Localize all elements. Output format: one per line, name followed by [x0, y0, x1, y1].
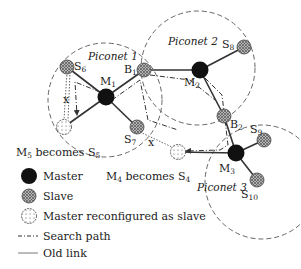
legend-reconfigured-label: Master reconfigured as slave	[43, 210, 206, 223]
master-node-m1	[98, 89, 115, 106]
label-s10: S10	[241, 188, 258, 202]
slave-node-s10	[250, 173, 264, 187]
piconet-2-label: Piconet 2	[167, 35, 218, 47]
label-s6: S6	[74, 60, 87, 74]
break-mark-2: x	[148, 136, 155, 149]
label-s7: S7	[124, 133, 137, 147]
label-b2: B2	[230, 118, 243, 132]
legend-search-path-label: Search path	[43, 230, 111, 243]
break-mark-1: x	[63, 93, 70, 106]
piconet-3-label: Piconet 3	[196, 181, 247, 193]
reconfigured-node-m5	[57, 120, 72, 135]
piconet-1-label: Piconet 1	[87, 50, 138, 62]
slave-node-s8	[237, 40, 251, 54]
slave-node-b1	[137, 63, 151, 77]
slave-node-b2	[217, 109, 231, 123]
m4-becomes-s4-label: M4 becomes S4	[106, 170, 191, 184]
legend-old-link-label: Old link	[43, 247, 87, 260]
master-node-m3	[228, 145, 245, 162]
reconfigured-node-m4	[171, 145, 186, 160]
m5-becomes-s5-label: M5 becomes S5	[16, 146, 101, 160]
scatternet-diagram: x x Piconet 1 Piconet 2 Piconet 3 S6 B1 …	[0, 0, 301, 269]
label-m3: M3	[219, 162, 235, 176]
label-b1: B1	[124, 63, 137, 77]
slave-node-s6	[60, 60, 74, 74]
slave-node-icon	[22, 189, 36, 203]
master-node-icon	[21, 168, 37, 184]
legend-slave-label: Slave	[43, 190, 73, 203]
label-s8: S8	[222, 38, 235, 52]
label-m1: M1	[100, 75, 116, 89]
legend-master-label: Master	[43, 170, 83, 183]
slave-node-s7	[130, 120, 144, 134]
reconfigured-node-icon	[22, 209, 37, 224]
